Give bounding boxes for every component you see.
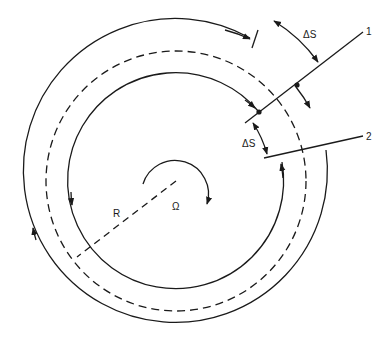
outer-arc-arrow-right: [296, 87, 310, 108]
diagram-canvas: ΔS ΔS 1 2 R Ω: [0, 0, 390, 353]
inner-arc-arrow-left: [71, 192, 72, 205]
inner-arc-arrow-top: [245, 100, 255, 108]
label-delta-s-outer: ΔS: [303, 29, 317, 40]
radial-line-2: [264, 136, 363, 158]
label-delta-s-inner: ΔS: [242, 138, 256, 149]
delta-s-outer-arrow: [274, 21, 318, 62]
dot-line1-inner: [256, 109, 261, 114]
rotation-arrow: [143, 160, 209, 204]
label-line-1: 1: [366, 26, 372, 37]
label-omega: Ω: [172, 201, 180, 212]
dot-line1-outer: [294, 82, 299, 87]
radius-line: [77, 181, 176, 257]
label-radius: R: [113, 208, 120, 219]
outer-arc-end-tick: [252, 30, 258, 48]
label-line-2: 2: [366, 131, 372, 142]
